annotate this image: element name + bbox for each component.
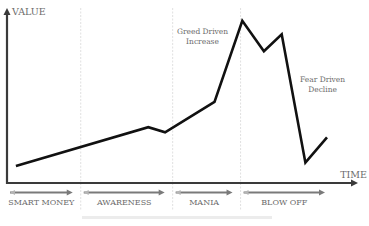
y-axis-arrowhead (4, 8, 11, 15)
annotation-1: Greed DrivenIncrease (177, 27, 228, 46)
phase-awareness: AWARENESS (84, 190, 165, 208)
phase-arrowhead-left (10, 190, 15, 195)
x-axis (6, 180, 358, 187)
phase-smart-money: SMART MONEY (8, 190, 75, 208)
phase-blow-off: BLOW OFF (244, 190, 325, 208)
phase-arrowhead-right (227, 190, 233, 196)
phase-arrowhead-right (159, 190, 165, 196)
series-line (16, 21, 327, 166)
phase-arrowhead-left (244, 190, 249, 195)
annotation-2: Fear DrivenDecline (300, 75, 345, 94)
phase-mania: MANIA (176, 190, 233, 208)
x-axis-label: TIME (340, 169, 367, 180)
bubble-chart: VALUE TIME Greed DrivenIncreaseFear Driv… (0, 0, 369, 226)
phase-label: SMART MONEY (8, 198, 75, 207)
y-axis-label: VALUE (11, 6, 46, 17)
caption (82, 216, 272, 219)
annotations: Greed DrivenIncreaseFear DrivenDecline (177, 27, 345, 93)
phase-arrowhead-left (176, 190, 181, 195)
phase-label: AWARENESS (96, 198, 152, 207)
phase-label: MANIA (189, 198, 219, 207)
phase-label: BLOW OFF (261, 198, 308, 207)
phase-arrowhead-right (67, 190, 73, 196)
x-axis-arrowhead (351, 180, 358, 187)
phase-arrows: SMART MONEYAWARENESSMANIABLOW OFF (8, 190, 325, 208)
series-points (16, 21, 327, 167)
phase-arrowhead-right (319, 190, 325, 196)
y-axis (4, 8, 11, 184)
phase-arrowhead-left (84, 190, 89, 195)
